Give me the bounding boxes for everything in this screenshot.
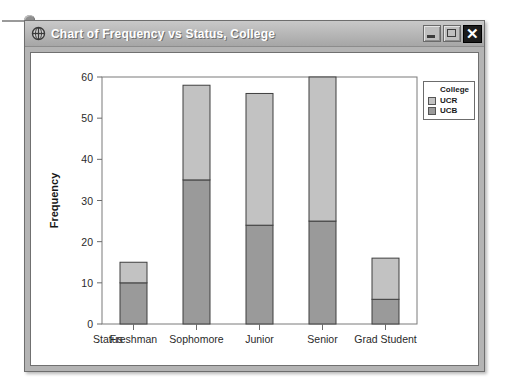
- bar-segment-ucb: [372, 299, 399, 324]
- legend-item-ucr[interactable]: UCR: [428, 96, 469, 105]
- chart-legend: College UCR UCB: [423, 81, 475, 120]
- y-tick-label: 60: [81, 71, 93, 83]
- chart-window: Chart of Frequency vs Status, College ✕ …: [24, 20, 485, 372]
- bar-segment-ucb: [120, 283, 147, 324]
- y-tick-label: 30: [81, 195, 93, 207]
- x-axis-title: Status: [93, 333, 123, 345]
- window-title: Chart of Frequency vs Status, College: [51, 27, 421, 41]
- y-axis-title: Frequency: [48, 172, 60, 229]
- plot-area: 0102030405060FrequencyFreshmanSophomoreJ…: [48, 71, 417, 345]
- bar-segment-ucb: [183, 180, 210, 324]
- bar-segment-ucr: [309, 77, 336, 221]
- bar-segment-ucb: [246, 225, 273, 324]
- x-tick-label: Sophomore: [169, 333, 223, 345]
- legend-item-ucb[interactable]: UCB: [428, 106, 469, 115]
- legend-label-ucr: UCR: [440, 96, 457, 105]
- maximize-icon: [447, 29, 456, 37]
- stacked-bar-chart: 0102030405060FrequencyFreshmanSophomoreJ…: [31, 53, 479, 366]
- y-tick-label: 40: [81, 153, 93, 165]
- close-button[interactable]: ✕: [463, 25, 482, 43]
- y-tick-label: 10: [81, 277, 93, 289]
- y-tick-label: 20: [81, 236, 93, 248]
- bar-segment-ucr: [372, 258, 399, 299]
- minimize-button[interactable]: [423, 25, 441, 42]
- bar-segment-ucr: [246, 93, 273, 225]
- bar-segment-ucr: [120, 262, 147, 283]
- x-tick-label: Senior: [307, 333, 338, 345]
- window-titlebar[interactable]: Chart of Frequency vs Status, College ✕: [25, 21, 484, 47]
- legend-swatch-ucb: [428, 107, 436, 115]
- legend-swatch-ucr: [428, 97, 436, 105]
- close-icon: ✕: [464, 26, 481, 42]
- chart-client-area: 0102030405060FrequencyFreshmanSophomoreJ…: [30, 52, 479, 366]
- x-tick-label: Grad Student: [354, 333, 417, 345]
- y-tick-label: 50: [81, 112, 93, 124]
- maximize-button[interactable]: [443, 25, 461, 42]
- bar-segment-ucr: [183, 85, 210, 180]
- legend-label-ucb: UCB: [440, 106, 457, 115]
- x-tick-label: Junior: [245, 333, 274, 345]
- minimize-icon: [427, 35, 435, 38]
- crosshair-globe-icon: [31, 26, 46, 41]
- legend-title: College: [428, 85, 469, 94]
- desktop-background: Chart of Frequency vs Status, College ✕ …: [0, 0, 507, 391]
- y-tick-label: 0: [87, 318, 93, 330]
- bar-segment-ucb: [309, 221, 336, 324]
